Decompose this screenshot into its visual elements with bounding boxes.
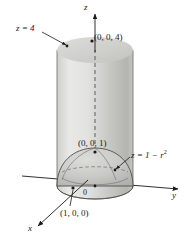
label-plane-z4: z = 4 [16, 24, 35, 33]
label-surface-equation: z = 1 − r2 [131, 151, 167, 160]
label-origin: 0 [83, 189, 87, 197]
axis-label-z: z [84, 3, 88, 12]
label-point-0-0-4: (0, 0, 4) [94, 33, 123, 42]
label-surface-equation-text: z = 1 − r [131, 150, 164, 160]
label-point-1-0-0: (1, 0, 0) [60, 209, 89, 218]
label-surface-equation-exponent: 2 [164, 149, 167, 155]
axis-label-x: x [28, 224, 32, 233]
axis-label-y: y [172, 191, 176, 200]
label-point-0-0-1: (0, 0, 1) [78, 139, 107, 148]
math-figure-3d-solid: z = 4 (0, 0, 4) (0, 0, 1) z = 1 − r2 (1,… [0, 0, 189, 241]
label-plane-z4-text: z = 4 [16, 23, 35, 33]
